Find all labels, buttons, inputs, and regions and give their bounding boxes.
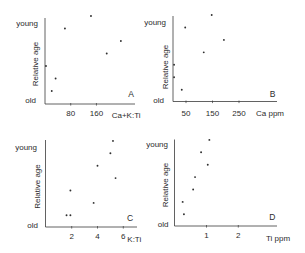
data-point [90,15,92,17]
x-axis-label: Ca+K:Ti [112,111,141,120]
data-point [184,27,186,29]
scatter-panel-b: young old Relative age Ca ppm B 50150250 [144,14,284,117]
data-point [69,190,71,192]
data-point [115,177,117,179]
panel-letter: B [270,89,276,99]
data-point [194,176,196,178]
data-point [207,164,209,166]
data-point [93,202,95,204]
x-tick-label: 2 [236,231,241,240]
y-axis-label: Relative age [161,44,170,89]
data-point [64,28,66,30]
x-tick-label: 80 [66,109,75,118]
y-top-label: young [16,19,38,28]
data-point [55,78,57,80]
data-point [203,51,205,53]
scatter-panel-d: young old Relative age Ti ppm D 12 [146,139,290,243]
x-tick-label: 250 [232,109,246,118]
data-point [120,40,122,42]
x-tick-label: 6 [121,232,126,241]
data-point [200,151,202,153]
scatter-figure: young old Relative age Ca+K:Ti A 80160 y… [0,0,305,253]
data-point [109,152,111,154]
scatter-panel-a: young old Relative age Ca+K:Ti A 80160 [16,15,141,120]
x-tick-label: 50 [182,109,191,118]
y-bottom-label: old [158,220,169,229]
data-point [66,214,68,216]
data-point [181,89,183,91]
data-point [106,53,108,55]
data-point [112,140,114,142]
x-axis-label: Ti ppm [266,234,290,243]
data-point [45,65,47,67]
y-top-label: young [144,18,166,27]
y-top-label: young [15,143,37,152]
y-bottom-label: old [153,96,164,105]
y-top-label: young [146,140,168,149]
data-point [183,213,185,215]
x-tick-label: 4 [95,232,100,241]
data-point [223,39,225,41]
data-point [173,76,175,78]
scatter-panel-c: young old Relative age K:Ti C 246 [15,140,141,244]
x-axis-label: K:Ti [127,235,141,244]
panel-letter: C [127,213,133,223]
data-point [97,165,99,167]
data-point [69,214,71,216]
data-point [51,90,53,92]
data-point [182,201,184,203]
y-axis-label: Relative age [161,162,170,207]
y-bottom-label: old [27,221,38,230]
data-point [173,64,175,66]
data-point [208,139,210,141]
data-point [211,14,213,16]
y-axis-label: Relative age [33,164,42,209]
y-axis-label: Relative age [31,41,40,86]
figure: young old Relative age Ca+K:Ti A 80160 y… [0,0,305,253]
data-point [192,189,194,191]
x-axis-label: Ca ppm [256,109,284,118]
x-tick-label: 1 [204,231,209,240]
panel-letter: A [128,89,134,99]
x-tick-label: 2 [69,232,74,241]
x-tick-label: 150 [206,109,220,118]
panel-letter: D [269,212,275,222]
y-bottom-label: old [25,96,36,105]
x-tick-label: 160 [90,109,104,118]
